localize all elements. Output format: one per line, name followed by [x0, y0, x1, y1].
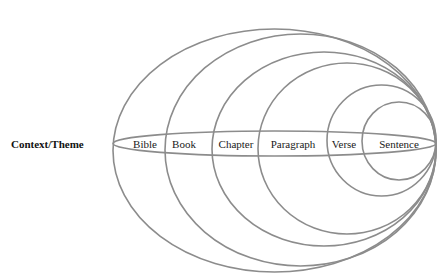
- context-rings: [113, 29, 436, 272]
- side-label-context-theme: Context/Theme: [11, 138, 84, 150]
- label-bible: Bible: [133, 138, 157, 150]
- label-verse: Verse: [332, 138, 357, 150]
- label-sentence: Sentence: [379, 138, 419, 150]
- nested-context-diagram: Context/Theme Bible Book Chapter Paragra…: [0, 0, 444, 278]
- label-paragraph: Paragraph: [271, 138, 316, 150]
- label-chapter: Chapter: [219, 138, 254, 150]
- label-book: Book: [172, 138, 196, 150]
- level-labels: Bible Book Chapter Paragraph Verse Sente…: [133, 138, 419, 150]
